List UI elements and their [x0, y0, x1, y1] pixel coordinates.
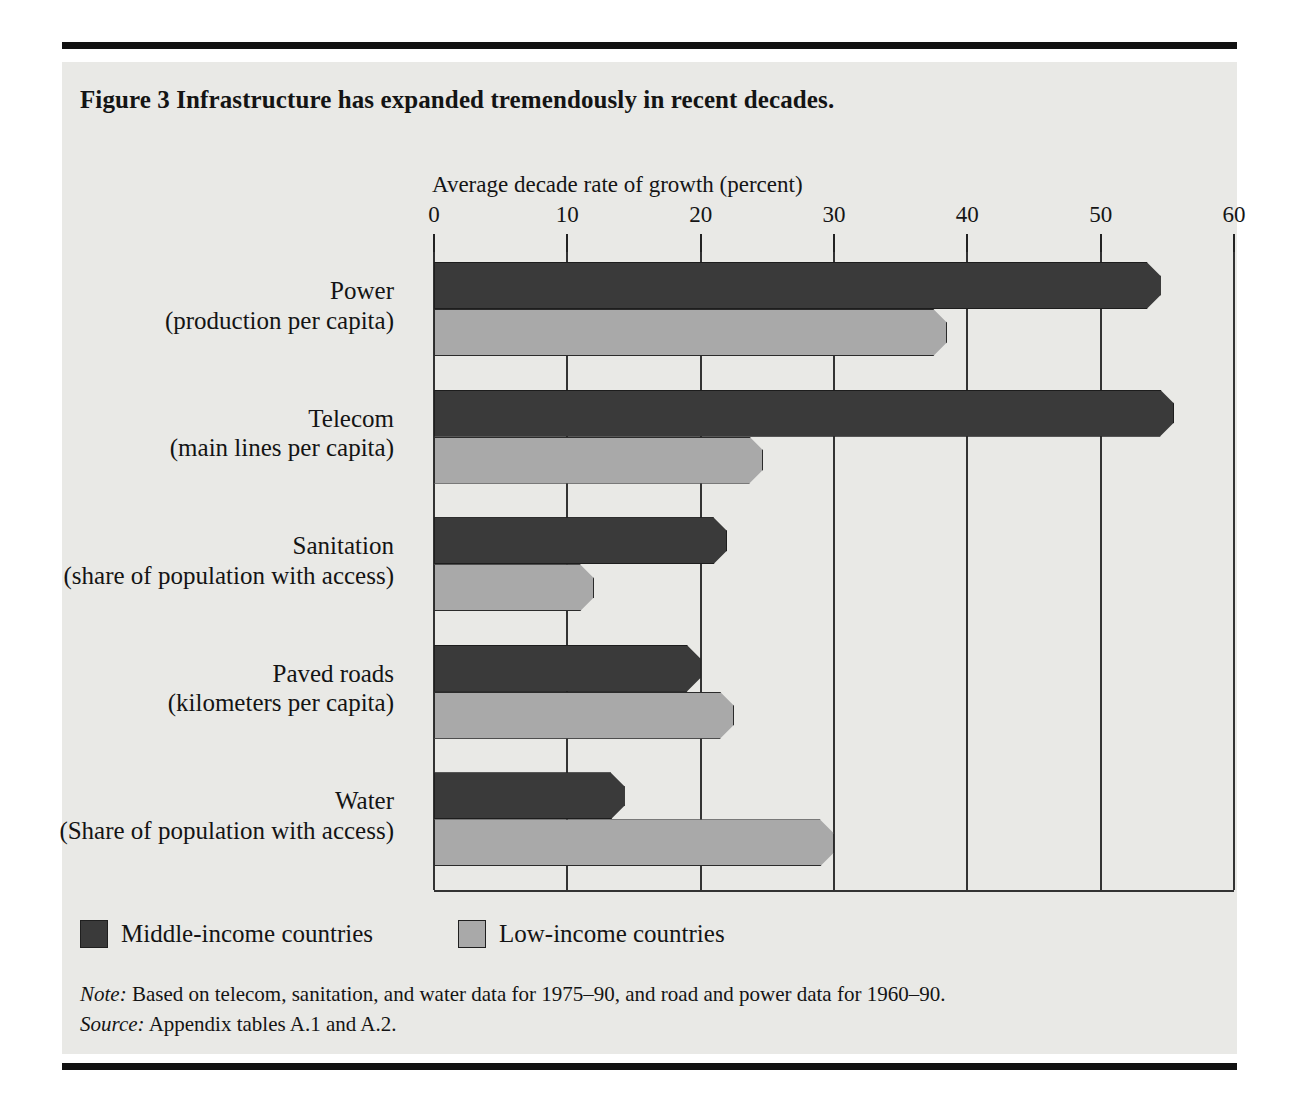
x-tick-label: 20: [689, 202, 712, 228]
category-name: Water: [335, 787, 394, 814]
gridline: [1100, 252, 1102, 890]
legend-swatch-low-income: [458, 920, 486, 948]
bar-low-income: [434, 564, 594, 611]
x-tick-mark: [966, 234, 968, 252]
category-unit: (kilometers per capita): [168, 688, 394, 718]
legend-label-middle-income: Middle-income countries: [121, 920, 373, 948]
bottom-rule: [62, 1063, 1237, 1070]
x-tick-mark: [833, 234, 835, 252]
x-tick-mark: [700, 234, 702, 252]
note-text: Based on telecom, sanitation, and water …: [132, 982, 946, 1006]
x-tick-mark: [566, 234, 568, 252]
bar-middle-income: [434, 772, 625, 819]
category-name: Telecom: [308, 405, 394, 432]
bar-middle-income: [434, 262, 1161, 309]
category-label: Telecom(main lines per capita): [170, 404, 394, 463]
x-tick-label: 10: [556, 202, 579, 228]
legend-swatch-middle-income: [80, 920, 108, 948]
x-tick-mark: [1233, 234, 1235, 252]
x-tick-label: 60: [1223, 202, 1246, 228]
x-tick-label: 50: [1089, 202, 1112, 228]
category-unit: (Share of population with access): [59, 816, 394, 846]
note-lead: Note:: [80, 982, 127, 1006]
category-name: Sanitation: [293, 532, 394, 559]
figure-container: Figure 3 Infrastructure has expanded tre…: [0, 0, 1298, 1115]
source-text: Appendix tables A.1 and A.2.: [149, 1012, 397, 1036]
bar-middle-income: [434, 645, 701, 692]
legend-item-middle-income: Middle-income countries: [80, 920, 373, 948]
x-tick-mark: [1100, 234, 1102, 252]
legend-item-low-income: Low-income countries: [458, 920, 725, 948]
figure-notes: Note: Based on telecom, sanitation, and …: [80, 980, 945, 1040]
bar-middle-income: [434, 517, 727, 564]
x-tick-label: 40: [956, 202, 979, 228]
axis-baseline: [434, 890, 1234, 892]
category-label: Paved roads(kilometers per capita): [168, 659, 394, 718]
bar-low-income: [434, 819, 834, 866]
x-tick-label: 30: [823, 202, 846, 228]
category-unit: (main lines per capita): [170, 433, 394, 463]
category-name: Power: [330, 277, 394, 304]
gridline: [966, 252, 968, 890]
category-name: Paved roads: [273, 660, 395, 687]
top-rule: [62, 42, 1237, 49]
category-label: Water(Share of population with access): [59, 786, 394, 845]
bar-middle-income: [434, 390, 1174, 437]
note-line: Note: Based on telecom, sanitation, and …: [80, 980, 945, 1010]
x-tick-label: 0: [428, 202, 440, 228]
plot-area: 0102030405060Power(production per capita…: [62, 62, 1237, 1054]
source-lead: Source:: [80, 1012, 145, 1036]
category-unit: (share of population with access): [64, 561, 394, 591]
figure-panel: Figure 3 Infrastructure has expanded tre…: [62, 62, 1237, 1054]
bar-low-income: [434, 692, 734, 739]
bar-low-income: [434, 437, 763, 484]
source-line: Source: Appendix tables A.1 and A.2.: [80, 1010, 945, 1040]
legend-label-low-income: Low-income countries: [499, 920, 725, 948]
x-tick-mark: [433, 234, 435, 252]
category-label: Sanitation(share of population with acce…: [64, 531, 394, 590]
category-label: Power(production per capita): [165, 276, 394, 335]
bar-low-income: [434, 309, 947, 356]
gridline: [1233, 252, 1235, 890]
category-unit: (production per capita): [165, 306, 394, 336]
